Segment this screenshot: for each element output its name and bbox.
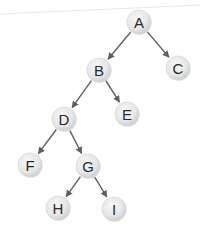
- tree-node-e: E: [115, 102, 140, 127]
- node-label: H: [53, 200, 64, 217]
- node-label: E: [122, 106, 132, 123]
- tree-node-a: A: [127, 10, 152, 35]
- node-label: B: [94, 62, 104, 79]
- tree-node-c: C: [166, 56, 191, 81]
- node-label: F: [25, 157, 34, 174]
- page-edge-line: [0, 5, 200, 14]
- node-label: A: [134, 14, 144, 31]
- tree-node-d: D: [52, 107, 77, 132]
- tree-node-b: B: [87, 58, 112, 83]
- nodes-layer: ABCDEFGHI: [18, 10, 191, 222]
- node-label: C: [173, 60, 184, 77]
- tree-node-h: H: [46, 196, 71, 221]
- node-label: D: [59, 111, 70, 128]
- node-label: G: [82, 158, 94, 175]
- edge-b-d: [72, 81, 91, 108]
- edge-d-f: [38, 130, 56, 154]
- tree-diagram: ABCDEFGHI: [0, 0, 200, 237]
- tree-node-i: I: [102, 197, 127, 222]
- edge-g-h: [66, 177, 80, 197]
- node-label: I: [112, 201, 116, 218]
- edge-a-b: [108, 32, 131, 59]
- edge-b-e: [106, 81, 120, 102]
- edge-g-i: [95, 177, 107, 197]
- tree-node-f: F: [18, 153, 43, 178]
- tree-node-g: G: [76, 154, 101, 179]
- edge-a-c: [147, 32, 169, 57]
- edge-d-g: [70, 131, 82, 154]
